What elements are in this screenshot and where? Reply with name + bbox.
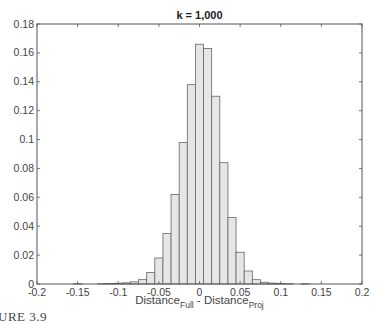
- y-tick-label: 0.16: [14, 46, 35, 58]
- histogram-bar: [179, 142, 187, 284]
- x-axis-label-mid: - Distance: [194, 294, 249, 306]
- x-tick-label: 0.2: [355, 286, 370, 298]
- x-axis-label: DistanceFull - DistanceProj: [135, 294, 264, 310]
- x-axis-label-sub1: Full: [180, 300, 194, 310]
- x-axis-label-sub2: Proj: [249, 300, 264, 310]
- histogram-bar: [204, 49, 212, 284]
- histogram-bar: [187, 85, 195, 284]
- x-tick-label: 0.15: [311, 286, 332, 298]
- x-axis-label-main1: Distance: [135, 294, 180, 306]
- histogram-bar: [163, 233, 171, 284]
- histogram-bar: [212, 96, 220, 284]
- y-tick-label: 0.04: [14, 220, 35, 232]
- histogram-bar: [228, 218, 236, 284]
- y-tick-label: 0.02: [14, 249, 35, 261]
- figure-caption: URE 3.9: [0, 309, 47, 325]
- histogram-bar: [147, 272, 155, 284]
- chart-title: k = 1,000: [176, 9, 222, 21]
- histogram-bar: [220, 163, 228, 284]
- y-tick-label: 0.08: [14, 162, 35, 174]
- histogram-bar: [171, 194, 179, 284]
- histogram-bar: [236, 252, 244, 284]
- y-tick-label: 0.14: [14, 75, 35, 87]
- y-tick-label: 0: [28, 278, 34, 290]
- histogram-chart: -0.2-0.15-0.1-0.0500.050.10.150.2 00.020…: [0, 0, 379, 325]
- y-tick-label: 0.18: [14, 18, 35, 30]
- histogram-bar: [139, 280, 147, 284]
- histogram-bar: [195, 44, 203, 284]
- y-tick-label: 0.06: [14, 191, 35, 203]
- y-tick-label: 0.12: [14, 104, 35, 116]
- y-tick-label: 0.1: [19, 133, 34, 145]
- x-tick-label: 0.1: [273, 286, 288, 298]
- histogram-bar: [155, 258, 163, 284]
- histogram-bar: [252, 280, 260, 284]
- x-tick-label: -0.1: [109, 286, 127, 298]
- x-tick-label: -0.15: [66, 286, 90, 298]
- histogram-bar: [244, 271, 252, 284]
- histogram-bars: [74, 44, 310, 284]
